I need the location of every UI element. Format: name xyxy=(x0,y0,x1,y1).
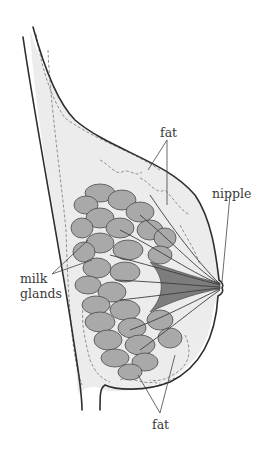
label-milk-glands-line1: milk xyxy=(20,271,48,286)
label-milk-glands-line2: glands xyxy=(20,286,62,301)
label-fat-bottom: fat xyxy=(152,417,169,432)
label-fat-top: fat xyxy=(160,125,177,140)
label-nipple: nipple xyxy=(212,186,251,201)
breast-anatomy-diagram: fat nipple milk glands fat xyxy=(0,0,264,469)
